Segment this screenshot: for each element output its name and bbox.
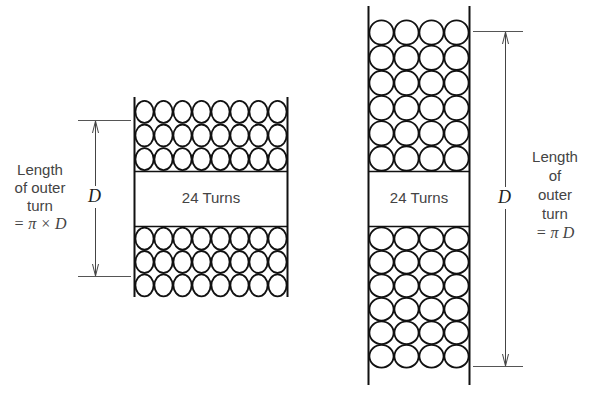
winding-turn xyxy=(230,228,248,250)
right-dimension-symbol: D xyxy=(498,187,511,208)
winding-turn xyxy=(173,274,191,296)
winding-turn xyxy=(268,125,286,147)
right-coil-turns-label: 24 Turns xyxy=(369,189,469,206)
winding-turn xyxy=(369,20,393,44)
winding-turn xyxy=(369,46,393,70)
winding-turn xyxy=(173,148,191,170)
winding-turn xyxy=(154,148,172,170)
winding-turn xyxy=(192,125,210,147)
winding-turn xyxy=(394,321,418,344)
winding-turn xyxy=(173,251,191,273)
winding-turn xyxy=(230,101,248,123)
winding-turn xyxy=(394,298,418,321)
winding-turn xyxy=(192,148,210,170)
winding-turn xyxy=(211,274,229,296)
winding-turn xyxy=(369,227,393,250)
winding-turn xyxy=(249,274,267,296)
winding-turn xyxy=(154,101,172,123)
winding-turn xyxy=(154,125,172,147)
winding-turn xyxy=(192,251,210,273)
winding-turn xyxy=(444,345,468,368)
winding-turn xyxy=(268,148,286,170)
winding-turn xyxy=(369,71,393,95)
winding-turn xyxy=(369,146,393,170)
winding-turn xyxy=(268,101,286,123)
winding-turn xyxy=(394,121,418,145)
winding-turn xyxy=(419,46,443,70)
winding-turn xyxy=(394,227,418,250)
right-coil-top-windings xyxy=(369,20,468,170)
winding-turn xyxy=(394,274,418,297)
winding-turn xyxy=(268,228,286,250)
winding-turn xyxy=(173,101,191,123)
winding-turn xyxy=(444,121,468,145)
winding-turn xyxy=(394,96,418,120)
left-coil-top-windings xyxy=(135,101,286,170)
winding-turn xyxy=(268,251,286,273)
winding-turn xyxy=(211,251,229,273)
winding-turn xyxy=(249,228,267,250)
winding-turn xyxy=(444,71,468,95)
winding-turn xyxy=(230,125,248,147)
winding-turn xyxy=(444,274,468,297)
winding-turn xyxy=(394,20,418,44)
winding-turn xyxy=(369,96,393,120)
winding-turn xyxy=(249,101,267,123)
winding-turn xyxy=(419,227,443,250)
winding-turn xyxy=(154,228,172,250)
winding-turn xyxy=(192,228,210,250)
right-annotation-line-2: of xyxy=(520,166,590,185)
winding-turn xyxy=(135,101,153,123)
right-annotation-line-4: turn xyxy=(520,204,590,223)
winding-turn xyxy=(369,121,393,145)
right-annotation-line-3: outer xyxy=(520,185,590,204)
winding-turn xyxy=(211,228,229,250)
winding-turn xyxy=(394,146,418,170)
winding-turn xyxy=(419,71,443,95)
winding-turn xyxy=(419,121,443,145)
winding-turn xyxy=(444,20,468,44)
winding-turn xyxy=(192,101,210,123)
winding-turn xyxy=(444,46,468,70)
winding-turn xyxy=(419,274,443,297)
winding-turn xyxy=(444,298,468,321)
winding-turn xyxy=(249,148,267,170)
left-annotation-line-3: turn xyxy=(0,197,80,215)
winding-turn xyxy=(444,227,468,250)
winding-turn xyxy=(419,146,443,170)
winding-turn xyxy=(394,345,418,368)
winding-turn xyxy=(419,345,443,368)
left-dimension-symbol: D xyxy=(88,186,101,207)
winding-turn xyxy=(173,228,191,250)
winding-turn xyxy=(419,251,443,274)
winding-turn xyxy=(192,274,210,296)
winding-turn xyxy=(173,125,191,147)
winding-turn xyxy=(230,251,248,273)
winding-turn xyxy=(369,274,393,297)
right-annotation: Length of outer turn = π D xyxy=(520,147,590,242)
winding-turn xyxy=(444,251,468,274)
winding-turn xyxy=(444,321,468,344)
left-coil-turns-label: 24 Turns xyxy=(135,189,287,206)
left-annotation-line-2: of outer xyxy=(0,179,80,197)
winding-turn xyxy=(394,46,418,70)
left-coil-bottom-windings xyxy=(135,228,286,297)
winding-turn xyxy=(444,96,468,120)
winding-turn xyxy=(268,274,286,296)
winding-turn xyxy=(135,274,153,296)
left-annotation-line-1: Length xyxy=(0,161,80,179)
winding-turn xyxy=(249,125,267,147)
winding-turn xyxy=(369,321,393,344)
winding-turn xyxy=(230,148,248,170)
left-annotation-line-4: = π × D xyxy=(0,215,80,233)
winding-turn xyxy=(211,125,229,147)
right-coil-bottom-windings xyxy=(369,227,468,367)
right-annotation-line-5: = π D xyxy=(520,223,590,242)
winding-turn xyxy=(135,148,153,170)
winding-turn xyxy=(419,20,443,44)
winding-turn xyxy=(211,101,229,123)
right-annotation-line-1: Length xyxy=(520,147,590,166)
winding-turn xyxy=(419,298,443,321)
winding-turn xyxy=(211,148,229,170)
winding-turn xyxy=(135,125,153,147)
